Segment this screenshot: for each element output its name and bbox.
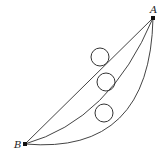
point-a-marker	[151, 16, 155, 20]
ball-on-straight-path	[91, 48, 109, 66]
point-a-label: A	[149, 4, 157, 15]
ball-on-middle-curve	[97, 73, 115, 91]
straight-path	[25, 18, 153, 144]
point-b-label: B	[13, 139, 21, 150]
point-b-marker	[23, 142, 27, 146]
ball-on-lower-curve	[95, 104, 113, 122]
brachistochrone-diagram: A B	[0, 0, 165, 161]
